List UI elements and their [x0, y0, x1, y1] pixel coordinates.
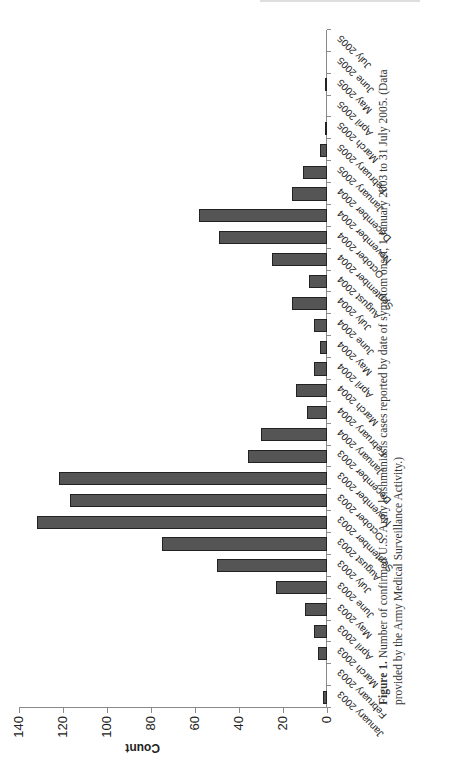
- bar: [320, 144, 327, 157]
- caption-text: Number of confirmed U.S. Army leishmania…: [377, 69, 404, 705]
- plot-area: 020406080100120140January 2003February 2…: [19, 30, 327, 708]
- rotated-chart: Count 020406080100120140January 2003Febr…: [0, 0, 449, 765]
- x-tick: [327, 379, 331, 380]
- bar: [199, 209, 327, 222]
- figure-label: Figure 1.: [377, 661, 389, 705]
- bar: [59, 472, 327, 485]
- x-tick: [327, 707, 331, 708]
- x-tick: [327, 576, 331, 577]
- bar: [261, 428, 327, 441]
- x-tick: [327, 291, 331, 292]
- x-tick: [327, 663, 331, 664]
- bar: [292, 187, 327, 200]
- x-tick: [327, 532, 331, 533]
- x-tick: [327, 466, 331, 467]
- y-tick: [63, 708, 64, 713]
- x-tick: [327, 641, 331, 642]
- bar: [314, 319, 327, 332]
- x-tick: [327, 182, 331, 183]
- x-tick: [327, 116, 331, 117]
- y-tick: [239, 708, 240, 713]
- y-tick-label: 20: [275, 716, 290, 748]
- bar: [314, 362, 327, 375]
- bar: [305, 603, 327, 616]
- x-tick: [327, 138, 331, 139]
- x-tick: [327, 510, 331, 511]
- x-tick: [327, 598, 331, 599]
- figure-caption: Figure 1. Number of confirmed U.S. Army …: [376, 65, 406, 705]
- y-tick: [283, 708, 284, 713]
- y-tick: [151, 708, 152, 713]
- y-tick-label: 100: [99, 716, 114, 748]
- x-tick: [327, 445, 331, 446]
- x-tick: [327, 95, 331, 96]
- bar: [307, 406, 327, 419]
- x-tick: [327, 335, 331, 336]
- x-tick: [327, 226, 331, 227]
- bar: [248, 450, 327, 463]
- bar: [217, 559, 327, 572]
- x-tick: [327, 313, 331, 314]
- y-tick-label: 80: [143, 716, 158, 748]
- bar: [309, 275, 327, 288]
- y-tick: [327, 708, 328, 713]
- x-tick: [327, 620, 331, 621]
- bar: [325, 122, 327, 135]
- x-tick: [327, 554, 331, 555]
- bar: [37, 516, 327, 529]
- x-tick: [327, 248, 331, 249]
- x-tick: [327, 423, 331, 424]
- y-axis-line: [19, 707, 327, 708]
- bar: [296, 384, 327, 397]
- x-tick: [327, 488, 331, 489]
- x-tick: [327, 73, 331, 74]
- y-tick-label: 0: [319, 716, 334, 748]
- y-tick: [107, 708, 108, 713]
- x-tick: [327, 204, 331, 205]
- y-tick: [19, 708, 20, 713]
- bar: [272, 253, 327, 266]
- bar: [323, 691, 327, 704]
- bar: [314, 625, 327, 638]
- y-tick-label: 120: [55, 716, 70, 748]
- bar: [292, 297, 327, 310]
- y-tick-label: 60: [187, 716, 202, 748]
- x-tick: [327, 160, 331, 161]
- bar: [162, 537, 327, 550]
- bar: [303, 166, 327, 179]
- x-tick: [327, 685, 331, 686]
- y-tick-label: 40: [231, 716, 246, 748]
- bar: [70, 494, 327, 507]
- y-tick-label: 140: [11, 716, 26, 748]
- bar: [276, 581, 327, 594]
- bar: [325, 78, 327, 91]
- x-tick: [327, 29, 331, 30]
- y-tick: [195, 708, 196, 713]
- bar: [219, 231, 327, 244]
- x-tick: [327, 357, 331, 358]
- bar: [320, 341, 327, 354]
- x-tick: [327, 401, 331, 402]
- x-tick: [327, 270, 331, 271]
- bar: [318, 647, 327, 660]
- x-tick: [327, 51, 331, 52]
